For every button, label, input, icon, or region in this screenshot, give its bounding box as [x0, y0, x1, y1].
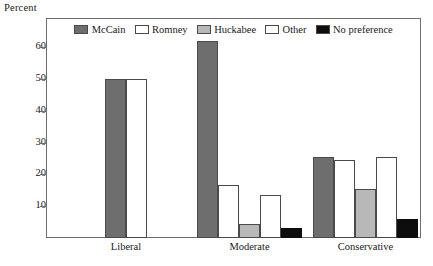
y-tick-label: 30: [12, 137, 46, 147]
y-tick: 10: [0, 206, 46, 207]
bar-conservative-other[interactable]: [376, 157, 397, 238]
bar-liberal-romney[interactable]: [126, 79, 147, 238]
bar-moderate-mccain[interactable]: [197, 41, 218, 238]
y-tick-label: 20: [12, 168, 46, 178]
bar-group-conservative: [313, 19, 418, 238]
x-axis-label-liberal: Liberal: [105, 241, 147, 252]
y-tick-mark: [40, 206, 46, 207]
y-tick-mark: [40, 47, 46, 48]
bar-moderate-huckabee[interactable]: [239, 224, 260, 238]
y-tick-label: 40: [12, 105, 46, 115]
y-tick-label: 50: [12, 73, 46, 83]
bar-moderate-romney[interactable]: [218, 185, 239, 238]
y-tick-mark: [40, 174, 46, 175]
bar-group-liberal: [105, 19, 147, 238]
bar-group-moderate: [197, 19, 302, 238]
y-tick-mark: [40, 111, 46, 112]
y-tick: 20: [0, 174, 46, 175]
y-axis-caption: Percent: [4, 2, 37, 13]
bar-chart: Percent 102030405060 McCainRomneyHuckabe…: [0, 0, 433, 266]
y-tick-label: 60: [12, 41, 46, 51]
bar-conservative-huckabee[interactable]: [355, 189, 376, 238]
y-tick-label: 10: [12, 200, 46, 210]
bar-liberal-mccain[interactable]: [105, 79, 126, 238]
bar-moderate-other[interactable]: [260, 195, 281, 238]
x-axis-label-moderate: Moderate: [197, 241, 302, 252]
bar-conservative-mccain[interactable]: [313, 157, 334, 238]
x-axis-label-conservative: Conservative: [313, 241, 418, 252]
y-tick: 50: [0, 79, 46, 80]
y-tick: 30: [0, 143, 46, 144]
y-tick: 40: [0, 111, 46, 112]
y-tick-mark: [40, 143, 46, 144]
y-tick-mark: [40, 79, 46, 80]
y-tick: 60: [0, 47, 46, 48]
bars-area: [47, 19, 420, 238]
bar-moderate-no-preference[interactable]: [281, 228, 302, 238]
bar-conservative-no-preference[interactable]: [397, 219, 418, 238]
bar-conservative-romney[interactable]: [334, 160, 355, 238]
